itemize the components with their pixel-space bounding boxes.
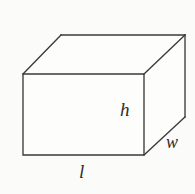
width-label: w (166, 133, 178, 151)
prism-drawing (0, 0, 195, 194)
height-label: h (120, 100, 130, 119)
length-label: l (79, 162, 84, 181)
prism-figure: h w l (0, 0, 195, 194)
